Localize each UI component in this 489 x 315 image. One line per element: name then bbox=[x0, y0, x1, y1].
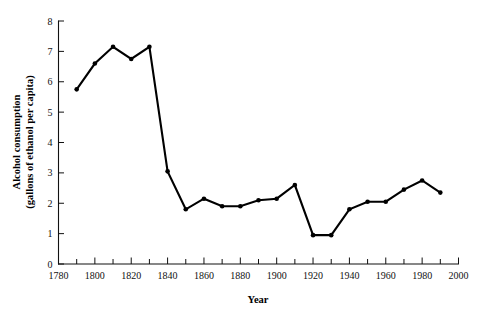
data-point-marker bbox=[274, 196, 279, 201]
data-point-marker bbox=[365, 199, 370, 204]
y-tick-label: 0 bbox=[48, 259, 53, 270]
tick-marks bbox=[59, 21, 459, 264]
data-point-marker bbox=[438, 190, 443, 195]
y-tick-label: 8 bbox=[48, 16, 53, 27]
x-axis-title: Year bbox=[248, 294, 269, 305]
data-point-marker bbox=[238, 204, 243, 209]
axes bbox=[59, 21, 459, 264]
x-tick-label: 1960 bbox=[376, 270, 396, 281]
series-line bbox=[77, 47, 441, 235]
x-tick-labels: 1780180018201840186018801900192019401960… bbox=[49, 270, 469, 281]
data-point-marker bbox=[147, 45, 152, 50]
data-point-marker bbox=[347, 207, 352, 212]
y-tick-label: 3 bbox=[48, 167, 53, 178]
data-point-marker bbox=[402, 187, 407, 192]
data-point-marker bbox=[293, 183, 298, 188]
y-tick-label: 6 bbox=[48, 76, 53, 87]
data-point-marker bbox=[311, 233, 316, 238]
data-point-marker bbox=[93, 61, 98, 66]
y-axis-title-line-2: (gallons of ethanol per capita) bbox=[24, 75, 36, 209]
chart-figure: 1780180018201840186018801900192019401960… bbox=[0, 0, 489, 315]
data-point-marker bbox=[220, 204, 225, 209]
data-point-marker bbox=[111, 45, 116, 50]
data-point-marker bbox=[183, 207, 188, 212]
data-point-marker bbox=[383, 199, 388, 204]
data-point-marker bbox=[202, 196, 207, 201]
x-tick-label: 2000 bbox=[449, 270, 469, 281]
data-point-marker bbox=[129, 57, 134, 62]
x-tick-label: 1860 bbox=[194, 270, 214, 281]
data-point-marker bbox=[329, 233, 334, 238]
x-tick-label: 1820 bbox=[121, 270, 141, 281]
x-tick-label: 1840 bbox=[158, 270, 178, 281]
x-tick-label: 1900 bbox=[267, 270, 287, 281]
x-tick-label: 1800 bbox=[85, 270, 105, 281]
x-tick-label: 1780 bbox=[49, 270, 69, 281]
x-tick-label: 1980 bbox=[412, 270, 432, 281]
y-tick-label: 5 bbox=[48, 107, 53, 118]
data-point-marker bbox=[420, 178, 425, 183]
y-axis-title-line-1: Alcohol consumption bbox=[11, 94, 22, 189]
x-tick-label: 1920 bbox=[303, 270, 323, 281]
line-chart: 1780180018201840186018801900192019401960… bbox=[0, 0, 489, 315]
data-point-marker bbox=[165, 169, 170, 174]
y-tick-label: 4 bbox=[48, 137, 53, 148]
x-tick-label: 1940 bbox=[339, 270, 359, 281]
data-point-marker bbox=[256, 198, 261, 203]
y-tick-label: 2 bbox=[48, 198, 53, 209]
y-tick-label: 7 bbox=[48, 46, 53, 57]
y-tick-labels: 012345678 bbox=[48, 16, 53, 270]
x-tick-label: 1880 bbox=[230, 270, 250, 281]
data-series bbox=[74, 45, 442, 238]
y-tick-label: 1 bbox=[48, 228, 53, 239]
data-point-marker bbox=[74, 87, 79, 92]
